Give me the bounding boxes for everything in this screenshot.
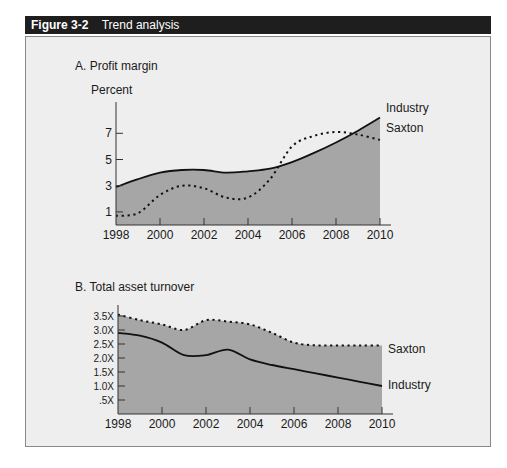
x-tick-label: 2006 [279,228,306,242]
y-tick-label: 3.0X [93,325,114,336]
y-tick-label: 3 [105,179,112,193]
x-tick-label: 2008 [325,417,352,431]
x-tick-label: 2004 [235,228,262,242]
x-tick-label: 1998 [105,417,132,431]
y-tick-label: 5 [105,153,112,167]
legend-saxton-a: Saxton [386,121,423,135]
x-tick-label: 2000 [149,417,176,431]
saxton-area-b [118,315,382,414]
y-tick-label: 2.0X [93,353,114,364]
x-tick-label: 2002 [191,228,218,242]
x-tick-label: 2008 [323,228,350,242]
y-tick-label: 1.0X [93,381,114,392]
x-tick-label: 2010 [367,228,394,242]
y-tick-label: 1.5X [93,367,114,378]
y-tick-label: 7 [105,126,112,140]
chart-profit-margin: A. Profit margin Percent 1357 1998200020… [75,59,429,242]
chart-asset-turnover: B. Total asset turnover .5X1.0X1.5X2.0X2… [75,280,431,431]
y-tick-label: 2.5X [93,339,114,350]
x-tick-label: 2004 [237,417,264,431]
x-tick-label: 2002 [193,417,220,431]
x-tick-label: 2010 [369,417,396,431]
x-tick-label: 2006 [281,417,308,431]
legend-industry-a: Industry [386,101,429,115]
x-tick-label: 1998 [103,228,130,242]
legend-saxton-b: Saxton [388,342,425,356]
y-tick-label: 3.5X [93,311,114,322]
x-tick-label: 2000 [147,228,174,242]
chart-a-title: A. Profit margin [75,59,158,73]
legend-industry-b: Industry [388,378,431,392]
y-tick-label: .5X [99,395,114,406]
chart-b-title: B. Total asset turnover [75,280,194,294]
y-tick-label: 1 [105,205,112,219]
charts-canvas: A. Profit margin Percent 1357 1998200020… [0,0,507,468]
chart-a-ylabel: Percent [91,83,133,97]
